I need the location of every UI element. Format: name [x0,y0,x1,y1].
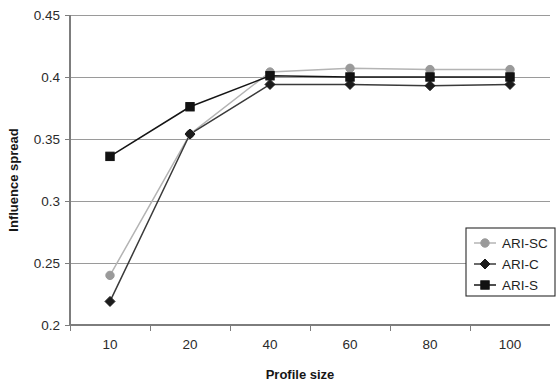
data-point-ari-s-40 [266,72,274,80]
y-tick-label: 0.3 [41,194,60,209]
chart-background [0,0,560,384]
y-tick-label: 0.2 [41,318,60,333]
legend-marker-ari-s [481,281,489,289]
data-point-ari-s-80 [426,73,434,81]
x-tick-label: 80 [422,337,437,352]
data-point-ari-s-10 [106,152,114,160]
y-tick-label: 0.35 [34,132,60,147]
legend-marker-ari-sc [481,239,489,247]
x-tick-label: 100 [499,337,522,352]
chart-container: 0.20.250.30.350.40.45 1020406080100 Infl… [0,0,560,384]
legend-label-ari-c: ARI-C [502,257,539,272]
x-axis-label: Profile size [266,367,335,382]
x-tick-label: 20 [182,337,197,352]
data-point-ari-sc-10 [106,271,114,279]
data-point-ari-sc-60 [346,64,354,72]
y-tick-label: 0.4 [41,70,60,85]
influence-spread-line-chart: 0.20.250.30.350.40.45 1020406080100 Infl… [0,0,560,384]
y-tick-label: 0.45 [34,8,60,23]
data-point-ari-s-100 [506,73,514,81]
legend-label-ari-sc: ARI-SC [502,236,548,251]
legend-label-ari-s: ARI-S [502,278,538,293]
y-axis-label: Influence spread [6,128,21,231]
x-tick-label: 40 [262,337,277,352]
x-tick-label: 60 [342,337,357,352]
data-point-ari-s-20 [186,103,194,111]
x-tick-label: 10 [102,337,117,352]
y-tick-label: 0.25 [34,256,60,271]
data-point-ari-s-60 [346,73,354,81]
chart-legend: ARI-SCARI-CARI-S [466,228,555,296]
